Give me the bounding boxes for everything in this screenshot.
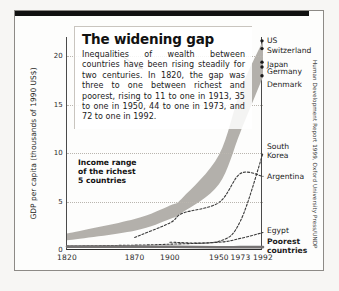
gridline	[67, 202, 263, 203]
gridline	[67, 153, 263, 154]
x-axis-tick: 1900	[160, 253, 180, 262]
x-axis-tick: 1870	[125, 253, 145, 262]
page-title: The widening gap	[82, 32, 245, 47]
x-axis-tick: 1950	[209, 253, 229, 262]
series-label: Denmark	[267, 80, 302, 89]
series-label: US	[267, 36, 277, 45]
y-axis-tick: 20	[54, 52, 63, 60]
x-axis-tick: 1820	[57, 253, 77, 262]
figure-clipping: GDP per capita (thousands of 1990 US$) 0…	[0, 0, 339, 291]
x-axis-tick: 1973	[231, 253, 251, 262]
series-label: South Korea	[267, 142, 289, 160]
series-line	[67, 247, 263, 248]
endpoint-marker	[260, 60, 263, 63]
endpoint-marker	[260, 47, 263, 50]
top-black-rule	[15, 11, 309, 16]
caption-box: The widening gap Inequalities of wealth …	[74, 26, 252, 129]
y-axis-tick: 5	[58, 198, 63, 206]
endpoint-marker	[260, 74, 263, 77]
y-axis-tick: 10	[54, 149, 63, 157]
endpoint-marker	[260, 39, 263, 42]
band-annotation-label: Income range of the richest 5 countries	[78, 158, 137, 186]
series-label: Poorest countries	[267, 237, 307, 255]
series-label: Argentina	[267, 172, 304, 181]
series-label: Germany	[267, 67, 302, 76]
source-credit: Human Development Report 1999, Oxford Un…	[312, 60, 318, 249]
series-label: Egypt	[267, 226, 289, 235]
caption-text: Inequalities of wealth between countries…	[82, 50, 245, 123]
series-label: Switzerland	[267, 46, 311, 55]
y-axis-tick: 15	[54, 101, 63, 109]
y-axis-title: GDP per capita (thousands of 1990 US$)	[28, 37, 40, 250]
endpoint-marker	[260, 65, 263, 68]
